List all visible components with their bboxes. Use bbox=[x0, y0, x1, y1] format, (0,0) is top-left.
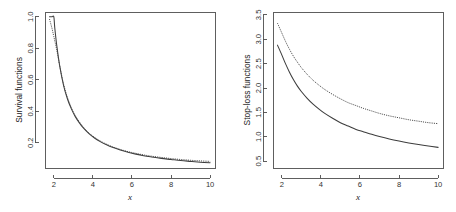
stoploss-svg: 246810x0.51.01.52.02.53.03.5Stop-loss fu… bbox=[228, 0, 456, 212]
stoploss-y-tick-label-4: 2.5 bbox=[255, 58, 264, 69]
survival-plot-box bbox=[45, 12, 215, 168]
survival-x-tick-label-0: 2 bbox=[52, 180, 56, 189]
survival-x-tick-label-2: 6 bbox=[130, 180, 134, 189]
survival-x-tick-label-1: 4 bbox=[91, 180, 95, 189]
stoploss-x-tick-label-0: 2 bbox=[280, 180, 284, 189]
survival-x-tick-label-3: 8 bbox=[169, 180, 173, 189]
stoploss-y-tick-label-3: 2.0 bbox=[255, 83, 264, 94]
figure-canvas: 246810x0.20.40.60.81.0Survival functions… bbox=[0, 0, 456, 212]
stoploss-y-tick-label-6: 3.5 bbox=[255, 10, 264, 21]
survival-x-axis-title: x bbox=[127, 192, 132, 202]
survival-y-tick-label-2: 0.6 bbox=[27, 74, 36, 85]
chart-panel-survival: 246810x0.20.40.60.81.0Survival functions bbox=[0, 0, 228, 212]
stoploss-x-tick-label-2: 6 bbox=[358, 180, 362, 189]
stoploss-y-tick-label-1: 1.0 bbox=[255, 132, 264, 143]
stoploss-y-tick-label-2: 1.5 bbox=[255, 107, 264, 118]
stoploss-curve-stoploss-dotted bbox=[277, 23, 438, 123]
survival-y-tick-label-0: 0.2 bbox=[27, 138, 36, 149]
survival-curve-survival-solid bbox=[49, 16, 210, 163]
survival-y-tick-label-1: 0.4 bbox=[27, 106, 36, 117]
stoploss-y-tick-label-0: 0.5 bbox=[255, 156, 264, 167]
stoploss-x-tick-label-3: 8 bbox=[397, 180, 401, 189]
stoploss-x-tick-label-1: 4 bbox=[319, 180, 323, 189]
stoploss-y-axis-title: Stop-loss functions bbox=[242, 55, 252, 126]
stoploss-x-axis-title: x bbox=[355, 192, 360, 202]
survival-x-tick-label-4: 10 bbox=[206, 180, 214, 189]
stoploss-y-tick-label-5: 3.0 bbox=[255, 34, 264, 45]
survival-y-tick-label-3: 0.8 bbox=[27, 43, 36, 54]
survival-y-tick-label-4: 1.0 bbox=[27, 11, 36, 22]
survival-y-axis-title: Survival functions bbox=[14, 57, 24, 123]
stoploss-curve-stoploss-solid bbox=[277, 45, 438, 147]
stoploss-x-tick-label-4: 10 bbox=[434, 180, 442, 189]
survival-curve-survival-dotted bbox=[49, 19, 210, 161]
chart-panel-stoploss: 246810x0.51.01.52.02.53.03.5Stop-loss fu… bbox=[228, 0, 456, 212]
survival-svg: 246810x0.20.40.60.81.0Survival functions bbox=[0, 0, 228, 212]
